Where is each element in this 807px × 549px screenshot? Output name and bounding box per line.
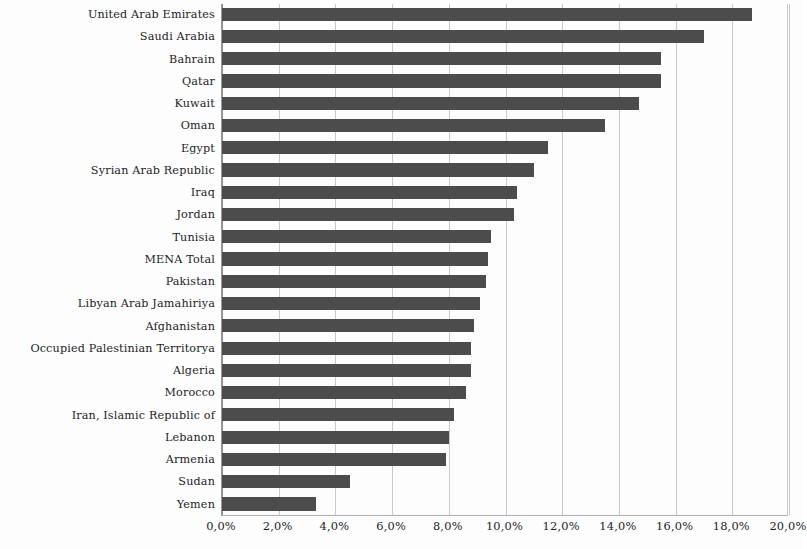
bar-row: [222, 204, 787, 226]
bar: [222, 8, 752, 21]
bar: [222, 186, 517, 199]
bar-row: [222, 26, 787, 48]
bar: [222, 74, 661, 87]
x-tick-label: 12,0%: [543, 519, 580, 533]
bar-row: [222, 160, 787, 182]
category-label: Lebanon: [165, 427, 215, 449]
bar-row: [222, 49, 787, 71]
bar: [222, 408, 454, 421]
category-label: Occupied Palestinian Territorya: [30, 338, 215, 360]
bar-row: [222, 405, 787, 427]
bar-row: [222, 182, 787, 204]
category-label: Iran, Islamic Republic of: [72, 405, 215, 427]
category-label: Jordan: [176, 204, 215, 226]
category-label: Bahrain: [169, 49, 215, 71]
bar-row: [222, 382, 787, 404]
bar: [222, 364, 471, 377]
category-label: Tunisia: [173, 227, 216, 249]
category-label: Egypt: [181, 138, 215, 160]
bar: [222, 275, 486, 288]
gridline-10: [789, 4, 790, 515]
category-label: Morocco: [164, 382, 215, 404]
bar-row: [222, 249, 787, 271]
x-tick-label: 2,0%: [263, 519, 293, 533]
category-label: Algeria: [173, 360, 215, 382]
bar: [222, 475, 350, 488]
value-axis-labels: 0,0%2,0%4,0%6,0%8,0%10,0%12,0%14,0%16,0%…: [0, 519, 802, 541]
bar: [222, 208, 514, 221]
bar: [222, 119, 605, 132]
category-axis-labels: United Arab EmiratesSaudi ArabiaBahrainQ…: [0, 4, 215, 516]
x-tick-label: 20,0%: [769, 519, 806, 533]
category-label: MENA Total: [144, 249, 215, 271]
bar: [222, 453, 446, 466]
bar-row: [222, 138, 787, 160]
category-label: Sudan: [178, 471, 215, 493]
bar: [222, 52, 661, 65]
bar: [222, 342, 471, 355]
bar: [222, 497, 316, 510]
category-label: Afghanistan: [145, 316, 215, 338]
category-label: Saudi Arabia: [140, 26, 215, 48]
x-tick-label: 10,0%: [486, 519, 523, 533]
x-tick-label: 14,0%: [599, 519, 636, 533]
bar-row: [222, 293, 787, 315]
x-tick-label: 16,0%: [656, 519, 693, 533]
x-tick-label: 0,0%: [206, 519, 236, 533]
category-label: Armenia: [166, 449, 215, 471]
category-label: Syrian Arab Republic: [91, 160, 215, 182]
bar: [222, 230, 491, 243]
bar-row: [222, 316, 787, 338]
x-tick-label: 8,0%: [433, 519, 463, 533]
bar: [222, 386, 466, 399]
bar-row: [222, 427, 787, 449]
category-label: Yemen: [177, 494, 215, 516]
bar-series: [222, 4, 787, 515]
bar: [222, 431, 449, 444]
bar-row: [222, 227, 787, 249]
bar-row: [222, 93, 787, 115]
bar-row: [222, 449, 787, 471]
bar-row: [222, 494, 787, 516]
bar-row: [222, 4, 787, 26]
bar-row: [222, 360, 787, 382]
bar: [222, 141, 548, 154]
bar-row: [222, 271, 787, 293]
bar: [222, 297, 480, 310]
bar-row: [222, 71, 787, 93]
bar: [222, 252, 488, 265]
category-label: Iraq: [191, 182, 215, 204]
plot-area: [221, 4, 788, 516]
category-label: Libyan Arab Jamahiriya: [78, 293, 215, 315]
bar-row: [222, 471, 787, 493]
bar-row: [222, 338, 787, 360]
bar-row: [222, 115, 787, 137]
bar: [222, 319, 474, 332]
bar: [222, 30, 704, 43]
category-label: Oman: [181, 115, 215, 137]
category-label: Pakistan: [166, 271, 215, 293]
category-label: United Arab Emirates: [88, 4, 215, 26]
bar: [222, 97, 639, 110]
x-tick-label: 4,0%: [320, 519, 350, 533]
category-label: Kuwait: [174, 93, 215, 115]
x-tick-label: 18,0%: [713, 519, 750, 533]
category-label: Qatar: [182, 71, 215, 93]
bar: [222, 163, 534, 176]
x-tick-label: 6,0%: [376, 519, 406, 533]
